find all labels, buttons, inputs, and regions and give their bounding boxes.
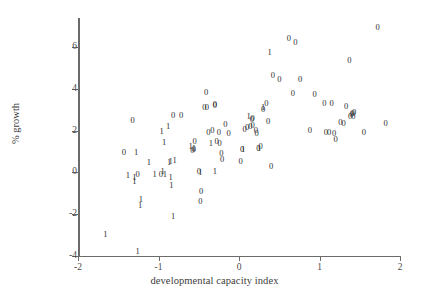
data-point-1: 1 bbox=[213, 167, 217, 176]
data-point-0: 0 bbox=[327, 128, 331, 137]
data-point-1: 1 bbox=[132, 177, 136, 186]
data-point-1: 1 bbox=[172, 156, 176, 165]
data-point-1: 1 bbox=[138, 201, 142, 210]
data-point-0: 0 bbox=[293, 38, 297, 47]
x-tick-mark bbox=[400, 256, 401, 261]
y-tick-label: 0 bbox=[55, 167, 77, 177]
data-point-1: 1 bbox=[103, 230, 107, 239]
data-point-1: 1 bbox=[257, 143, 261, 152]
data-point-0: 0 bbox=[226, 129, 230, 138]
y-tick-label: 4 bbox=[55, 84, 77, 94]
x-tick-mark bbox=[78, 256, 79, 261]
data-point-0: 0 bbox=[199, 186, 203, 195]
data-point-0: 0 bbox=[344, 102, 348, 111]
y-axis-title: % growth bbox=[10, 87, 21, 161]
data-point-0: 0 bbox=[322, 99, 326, 108]
data-point-1: 1 bbox=[241, 145, 245, 154]
data-point-1: 1 bbox=[152, 170, 156, 179]
y-tick-label: -4 bbox=[55, 251, 77, 261]
x-tick-label: 0 bbox=[226, 263, 252, 273]
x-tick-mark bbox=[159, 256, 160, 261]
data-point-0: 0 bbox=[220, 155, 224, 164]
y-tick-label: 2 bbox=[55, 126, 77, 136]
data-point-0: 0 bbox=[238, 156, 242, 165]
data-point-0: 0 bbox=[218, 138, 222, 147]
data-point-0: 0 bbox=[352, 108, 356, 117]
x-tick-label: 2 bbox=[387, 263, 413, 273]
data-point-0: 0 bbox=[213, 100, 217, 109]
data-point-0: 0 bbox=[271, 70, 275, 79]
data-point-1: 1 bbox=[163, 170, 167, 179]
x-tick-mark bbox=[320, 256, 321, 261]
data-point-0: 0 bbox=[308, 126, 312, 135]
y-tick-label: -2 bbox=[55, 209, 77, 219]
data-point-1: 1 bbox=[171, 212, 175, 221]
data-point-0: 0 bbox=[255, 129, 259, 138]
y-tick-label: 6 bbox=[55, 42, 77, 52]
data-point-1: 1 bbox=[135, 247, 139, 256]
data-point-0: 0 bbox=[277, 75, 281, 84]
data-point-1: 1 bbox=[169, 181, 173, 190]
data-point-1: 1 bbox=[162, 138, 166, 147]
x-tick-label: -2 bbox=[65, 263, 91, 273]
data-point-0: 0 bbox=[341, 118, 345, 127]
data-point-0: 0 bbox=[362, 128, 366, 137]
data-point-0: 0 bbox=[266, 116, 270, 125]
data-point-1: 1 bbox=[134, 148, 138, 157]
data-point-0: 0 bbox=[269, 161, 273, 170]
data-point-0: 0 bbox=[375, 23, 379, 32]
data-point-1: 1 bbox=[261, 103, 265, 112]
data-point-0: 0 bbox=[333, 135, 337, 144]
data-point-0: 0 bbox=[198, 197, 202, 206]
data-point-0: 0 bbox=[131, 115, 135, 124]
x-axis-title: developmental capacity index bbox=[0, 275, 429, 286]
scatter-plot: 6420-2-4 -2-1012 00000000000000000000000… bbox=[0, 0, 429, 296]
data-point-0: 0 bbox=[383, 118, 387, 127]
x-tick-mark bbox=[239, 256, 240, 261]
y-axis-line bbox=[78, 18, 80, 256]
x-tick-label: 1 bbox=[307, 263, 333, 273]
data-point-1: 1 bbox=[192, 143, 196, 152]
data-point-1: 1 bbox=[147, 158, 151, 167]
data-point-0: 0 bbox=[204, 88, 208, 97]
data-point-0: 0 bbox=[291, 89, 295, 98]
x-tick-label: -1 bbox=[146, 263, 172, 273]
data-point-1: 1 bbox=[198, 168, 202, 177]
data-point-1: 1 bbox=[267, 47, 271, 56]
data-point-0: 0 bbox=[298, 75, 302, 84]
data-point-0: 0 bbox=[179, 111, 183, 120]
data-point-0: 0 bbox=[287, 34, 291, 43]
data-point-0: 0 bbox=[347, 56, 351, 65]
data-point-1: 1 bbox=[166, 122, 170, 131]
data-point-1: 1 bbox=[126, 170, 130, 179]
data-point-0: 0 bbox=[205, 103, 209, 112]
data-point-0: 0 bbox=[313, 90, 317, 99]
data-point-0: 0 bbox=[329, 99, 333, 108]
data-point-0: 0 bbox=[210, 126, 214, 135]
data-point-1: 1 bbox=[247, 111, 251, 120]
data-point-0: 0 bbox=[171, 111, 175, 120]
data-point-1: 1 bbox=[209, 138, 213, 147]
data-point-0: 0 bbox=[217, 128, 221, 137]
data-point-1: 1 bbox=[160, 127, 164, 136]
data-point-0: 0 bbox=[122, 148, 126, 157]
